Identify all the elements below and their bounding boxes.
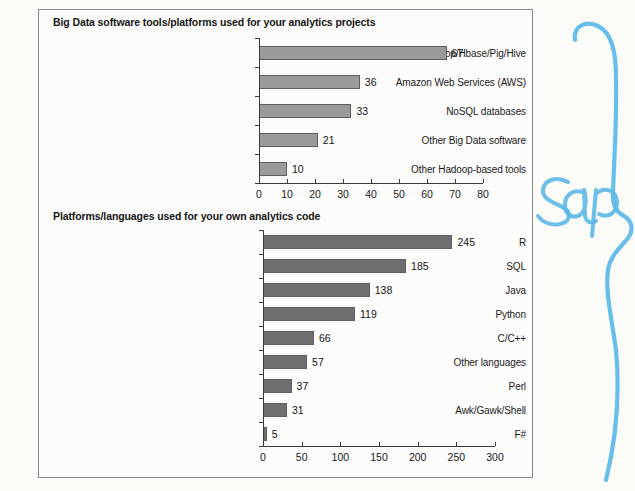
x-axis-tick	[427, 179, 428, 183]
y-axis-tick	[255, 125, 259, 126]
chart-panel-languages: Platforms/languages used for your own an…	[39, 210, 532, 478]
x-axis-tick-label: 80	[477, 188, 489, 200]
bar-row: R245	[39, 230, 532, 254]
bar-row: Python119	[39, 302, 532, 326]
chart-2-rows: R245SQL185Java138Python119C/C++66Other l…	[39, 230, 532, 446]
x-axis-tick	[399, 179, 400, 183]
bar-value-label: 10	[292, 163, 304, 175]
y-axis-tick	[255, 67, 259, 68]
category-label: Perl	[302, 381, 532, 392]
x-axis-tick-label: 200	[409, 451, 427, 463]
bar-row: Apache Hadoop/Hbase/Pig/Hive67	[39, 38, 532, 67]
y-axis-line	[263, 230, 264, 446]
x-axis-tick-label: 0	[256, 188, 262, 200]
x-axis-tick	[456, 442, 457, 446]
bar	[263, 235, 452, 249]
category-label: F#	[302, 429, 532, 440]
bar-value-label: 37	[297, 380, 309, 392]
y-axis-tick	[259, 326, 263, 327]
bar-value-label: 21	[323, 134, 335, 146]
bar-group: 36	[259, 75, 376, 89]
chart-1-plot: Apache Hadoop/Hbase/Pig/Hive67Amazon Web…	[39, 38, 532, 206]
chart-2-plot: R245SQL185Java138Python119C/C++66Other l…	[39, 230, 532, 474]
bar-value-label: 36	[365, 76, 377, 88]
bar	[263, 355, 307, 369]
x-axis-tick	[418, 442, 419, 446]
bar-value-label: 119	[360, 308, 377, 320]
category-label: C/C++	[302, 333, 532, 344]
bar-value-label: 66	[319, 332, 331, 344]
x-axis-tick	[343, 179, 344, 183]
category-label: Other Big Data software	[306, 134, 532, 145]
x-axis-tick	[315, 179, 316, 183]
bar-group: 37	[263, 379, 308, 393]
y-axis-tick	[255, 154, 259, 155]
x-axis-tick-label: 40	[365, 188, 377, 200]
bar	[259, 75, 360, 89]
bar-group: 5	[263, 427, 278, 441]
bar-row: Java138	[39, 278, 532, 302]
x-axis-tick	[263, 442, 264, 446]
bar-group: 67	[259, 46, 463, 60]
bar-group: 66	[263, 331, 331, 345]
bar	[263, 379, 292, 393]
bar-row: C/C++66	[39, 326, 532, 350]
bar-row: Other Big Data software21	[39, 125, 532, 154]
y-axis-tick	[259, 374, 263, 375]
bar	[263, 403, 287, 417]
bar-row: NoSQL databases33	[39, 96, 532, 125]
bar	[259, 133, 318, 147]
bar-value-label: 33	[356, 105, 368, 117]
y-axis-tick	[259, 278, 263, 279]
bar-row: Amazon Web Services (AWS)36	[39, 67, 532, 96]
bar-row: Awk/Gawk/Shell31	[39, 398, 532, 422]
x-axis-tick	[340, 442, 341, 446]
x-axis-tick-label: 30	[337, 188, 349, 200]
bar	[259, 162, 287, 176]
category-label: Awk/Gawk/Shell	[302, 405, 532, 416]
x-axis-tick	[455, 179, 456, 183]
bar-row: SQL185	[39, 254, 532, 278]
category-label: Other languages	[302, 357, 532, 368]
bar	[259, 104, 351, 118]
bar-group: 185	[263, 259, 429, 273]
chart-2-title: Platforms/languages used for your own an…	[53, 210, 320, 222]
bar-value-label: 138	[375, 284, 393, 296]
bar	[263, 307, 355, 321]
y-axis-tick	[259, 350, 263, 351]
bar-row: Perl37	[39, 374, 532, 398]
bar	[263, 283, 370, 297]
y-axis-tick	[259, 302, 263, 303]
x-axis-tick	[259, 179, 260, 183]
y-axis-tick	[259, 422, 263, 423]
x-axis-line	[263, 446, 495, 447]
y-axis-tick	[255, 38, 259, 39]
x-axis-tick-label: 20	[309, 188, 321, 200]
bar-value-label: 185	[411, 260, 429, 272]
bar-row: F#5	[39, 422, 532, 446]
bar-group: 33	[259, 104, 368, 118]
bar-group: 31	[263, 403, 304, 417]
bar-value-label: 31	[292, 404, 304, 416]
y-axis-tick	[255, 96, 259, 97]
y-axis-tick	[259, 254, 263, 255]
bar-group: 57	[263, 355, 324, 369]
bar-value-label: 67	[452, 47, 464, 59]
x-axis-tick-label: 60	[421, 188, 433, 200]
bar	[263, 331, 314, 345]
y-axis-line	[259, 38, 260, 183]
chart-1-title: Big Data software tools/platforms used f…	[53, 16, 375, 28]
x-axis-tick	[302, 442, 303, 446]
bar-value-label: 5	[272, 428, 278, 440]
x-axis-tick	[379, 442, 380, 446]
x-axis-line	[259, 183, 483, 184]
bar-value-label: 57	[312, 356, 324, 368]
x-axis-tick-label: 50	[296, 451, 308, 463]
x-axis-tick-label: 10	[281, 188, 293, 200]
x-axis-tick-label: 250	[448, 451, 466, 463]
bar	[259, 46, 447, 60]
x-axis-tick-label: 100	[332, 451, 350, 463]
x-axis-tick-label: 150	[370, 451, 388, 463]
bar	[263, 259, 406, 273]
bar-group: 138	[263, 283, 392, 297]
